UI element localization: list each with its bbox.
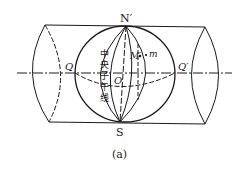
- meridian-right-inner: [120, 26, 132, 122]
- point-m: [145, 54, 147, 56]
- label-north-pole: N′: [120, 12, 133, 25]
- cylinder-right-front-arc: [205, 27, 219, 124]
- svg-text:子: 子: [100, 71, 109, 81]
- meridian-right-outer: [120, 26, 146, 122]
- label-q-prime: Q′: [178, 61, 189, 72]
- label-m: m: [149, 49, 158, 59]
- equator: [75, 73, 175, 87]
- figure-caption: (a): [112, 148, 127, 161]
- svg-text:央: 央: [100, 59, 109, 70]
- label-south-pole: S: [116, 126, 124, 139]
- svg-text:线: 线: [100, 92, 109, 103]
- central-meridian-label: 中 央 子 午 线: [100, 48, 109, 103]
- label-m-prime: M′: [129, 51, 141, 61]
- label-q: Q: [65, 61, 73, 72]
- svg-text:中: 中: [100, 48, 109, 59]
- transverse-cylinder-projection-diagram: N′ S Q Q′ O M′ m 中 央 子 午 线 (a): [0, 0, 246, 170]
- svg-text:午: 午: [100, 81, 109, 92]
- label-origin: O: [114, 75, 122, 86]
- cylinder-right-back-arc: [192, 27, 206, 124]
- meridian-left-inner: [110, 26, 126, 122]
